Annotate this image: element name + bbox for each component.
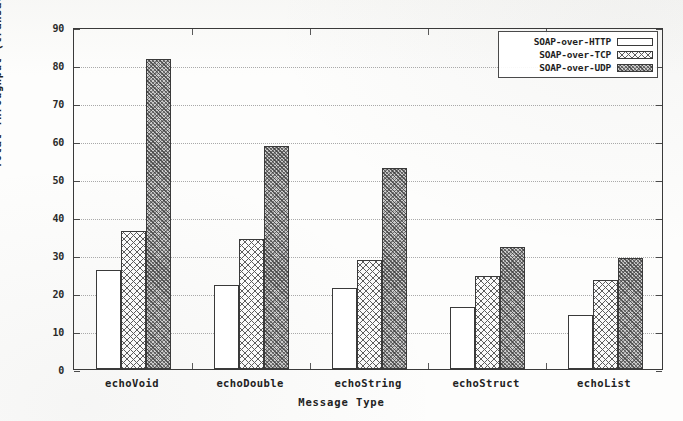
bar (500, 247, 525, 369)
x-axis-category-label: echoDouble (216, 377, 283, 389)
legend-row: SOAP-over-HTTP (501, 35, 653, 48)
bar (214, 285, 239, 369)
y-axis-tick-mark (74, 257, 80, 258)
x-axis-tick-mark (310, 29, 311, 35)
legend-label: SOAP-over-HTTP (534, 36, 611, 47)
y-axis-tick-mark (656, 257, 662, 258)
y-axis-tick-label: 0 (24, 365, 64, 376)
y-axis-tick-label: 30 (24, 251, 64, 262)
x-axis-category-label: echoString (334, 377, 401, 389)
legend-label: SOAP-over-UDP (539, 62, 611, 73)
y-axis-tick-mark (74, 105, 80, 106)
legend-swatch (617, 64, 653, 72)
bar (357, 260, 382, 369)
x-axis-category-label: echoVoid (105, 377, 159, 389)
bar (450, 307, 475, 369)
chart-figure: Total Throughput (transactions/s) 010203… (0, 0, 683, 421)
legend-swatch (617, 38, 653, 46)
bar (239, 239, 264, 369)
y-axis-tick-label: 80 (24, 61, 64, 72)
bar (146, 59, 171, 369)
y-axis-tick-mark (656, 295, 662, 296)
y-axis-tick-mark (656, 371, 662, 372)
bar (96, 270, 121, 369)
y-axis-tick-label: 70 (24, 99, 64, 110)
y-axis-tick-label: 50 (24, 175, 64, 186)
x-axis-category-label: echoList (577, 377, 631, 389)
legend-row: SOAP-over-TCP (501, 48, 653, 61)
y-axis-tick-mark (74, 181, 80, 182)
y-axis-tick-mark (656, 181, 662, 182)
y-axis-tick-mark (656, 143, 662, 144)
x-axis-tick-mark (546, 363, 547, 369)
legend-label: SOAP-over-TCP (539, 49, 611, 60)
x-axis-tick-mark (192, 363, 193, 369)
y-axis-tick-mark (74, 143, 80, 144)
x-axis-tick-mark (192, 29, 193, 35)
bar (382, 168, 407, 369)
x-axis-category-label: echoStruct (452, 377, 519, 389)
y-axis-tick-label: 40 (24, 213, 64, 224)
y-axis-title: Total Throughput (transactions/s) (0, 0, 3, 199)
legend-swatch (617, 51, 653, 59)
y-axis-tick-mark (74, 371, 80, 372)
y-axis-tick-mark (74, 295, 80, 296)
y-axis-tick-mark (74, 333, 80, 334)
bar (121, 231, 146, 369)
plot-area (73, 28, 663, 370)
y-axis-tick-mark (74, 219, 80, 220)
y-axis-tick-label: 10 (24, 327, 64, 338)
y-axis-tick-mark (656, 29, 662, 30)
bar (568, 315, 593, 369)
x-axis-tick-mark (428, 363, 429, 369)
y-axis-tick-label: 90 (24, 23, 64, 34)
x-axis-tick-mark (428, 29, 429, 35)
y-axis-tick-mark (656, 219, 662, 220)
bar (475, 276, 500, 369)
x-axis-tick-mark (310, 363, 311, 369)
y-axis-tick-mark (656, 333, 662, 334)
y-axis-tick-label: 20 (24, 289, 64, 300)
y-axis-tick-mark (656, 105, 662, 106)
bar (332, 288, 357, 369)
bar (618, 258, 643, 369)
y-axis-tick-mark (74, 29, 80, 30)
bar (593, 280, 618, 369)
bar (264, 146, 289, 369)
legend-row: SOAP-over-UDP (501, 61, 653, 74)
y-axis-tick-label: 60 (24, 137, 64, 148)
chart-legend: SOAP-over-HTTPSOAP-over-TCPSOAP-over-UDP (498, 31, 658, 78)
x-axis-title: Message Type (0, 396, 683, 408)
y-axis-tick-mark (74, 67, 80, 68)
